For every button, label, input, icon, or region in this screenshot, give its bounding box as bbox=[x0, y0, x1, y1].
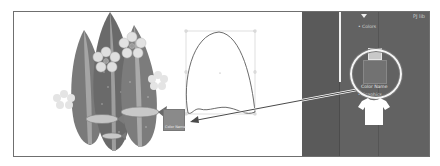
app-window: Color Name PJ lib • Colors Color Name • … bbox=[13, 11, 430, 157]
drag-arrow-overlay bbox=[14, 12, 430, 157]
arrow-head-icon bbox=[190, 116, 199, 123]
